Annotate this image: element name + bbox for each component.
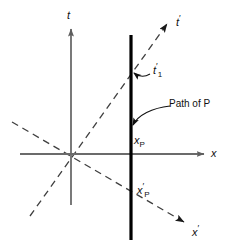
event-label-x-p: xP: [134, 135, 145, 149]
t1-prime-subscript: 1: [158, 70, 162, 79]
t-prime-mark: ′: [179, 13, 181, 23]
event-label-t1-prime: t′1: [153, 62, 162, 79]
x-p-prime-subscript: P: [144, 190, 149, 199]
x-prime-mark: ′: [198, 223, 200, 233]
spacetime-diagram-figure: t x t′ x′ t′1 xP x′P Path of P: [0, 0, 229, 246]
path-of-p-leader-arrow: [133, 106, 170, 125]
t1-prime-leader-arrow: [134, 73, 150, 76]
x-axis-label: x: [211, 148, 217, 159]
x-p-subscript: P: [140, 140, 145, 149]
t-axis-label: t: [67, 10, 70, 21]
x-prime-axis-line: [12, 122, 184, 222]
event-label-x-p-prime: x′P: [137, 182, 150, 199]
annotation-path-of-p: Path of P: [169, 99, 210, 109]
x-prime-axis-label: x′: [192, 224, 199, 238]
t-prime-axis-label: t′: [176, 14, 181, 28]
diagram-canvas: [0, 0, 229, 246]
